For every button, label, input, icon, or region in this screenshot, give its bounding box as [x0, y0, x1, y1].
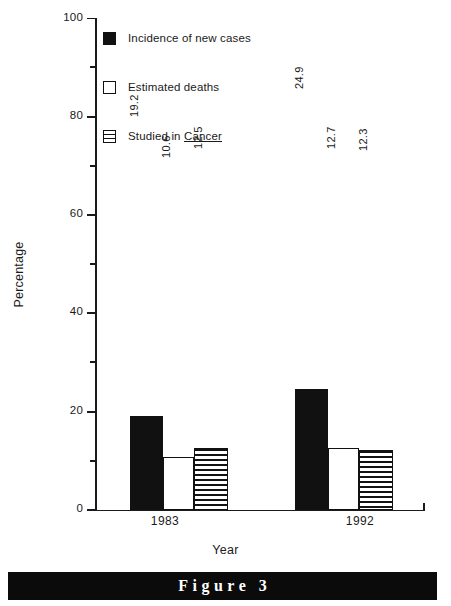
- bar-1992-studied: [359, 450, 393, 510]
- y-tick-label-100: 100: [43, 12, 83, 24]
- bar-1983-studied: [194, 448, 228, 510]
- bar-value-1992-incidence: 24.9: [294, 66, 305, 89]
- bar-1992-deaths: [328, 448, 359, 510]
- legend-label-studied-prefix: Studied in: [128, 130, 184, 142]
- y-tick-label-20: 20: [43, 405, 83, 417]
- legend-label-deaths: Estimated deaths: [128, 81, 219, 94]
- y-tick-label-60: 60: [43, 208, 83, 220]
- bar-value-1992-studied: 12.3: [358, 128, 369, 151]
- figure-caption-text: Figure 3: [8, 572, 437, 600]
- figure-caption-banner: Figure 3: [8, 572, 437, 600]
- y-axis-title: Percentage: [13, 220, 26, 330]
- y-tick-label-80: 80: [43, 110, 83, 122]
- x-axis-title: Year: [0, 543, 451, 557]
- figure-3-chart: Percentage 100 80 60 40 20 0 19.2 10.6 1…: [0, 0, 451, 606]
- legend-swatch-solid-black-icon: [103, 32, 116, 45]
- bar-value-1992-deaths: 12.7: [326, 126, 337, 149]
- bar-1992-incidence: [295, 389, 328, 510]
- bar-value-1983-incidence: 19.2: [129, 94, 140, 117]
- x-category-label-1983: 1983: [115, 514, 215, 528]
- y-tick-label-40: 40: [43, 306, 83, 318]
- legend-item-deaths: Estimated deaths: [103, 79, 219, 95]
- bar-1983-incidence: [130, 416, 163, 510]
- legend-item-incidence: Incidence of new cases: [103, 30, 251, 46]
- legend-swatch-hatched-icon: [103, 130, 116, 143]
- legend-item-studied: Studied in Cancer: [103, 128, 222, 144]
- bar-1983-deaths: [163, 457, 194, 510]
- legend-label-studied: Studied in Cancer: [128, 130, 222, 143]
- legend-label-studied-journal: Cancer: [184, 130, 222, 142]
- legend-label-incidence: Incidence of new cases: [128, 32, 251, 45]
- x-category-label-1992: 1992: [310, 514, 410, 528]
- y-tick-label-0: 0: [43, 503, 83, 515]
- legend-swatch-open-white-icon: [103, 81, 116, 94]
